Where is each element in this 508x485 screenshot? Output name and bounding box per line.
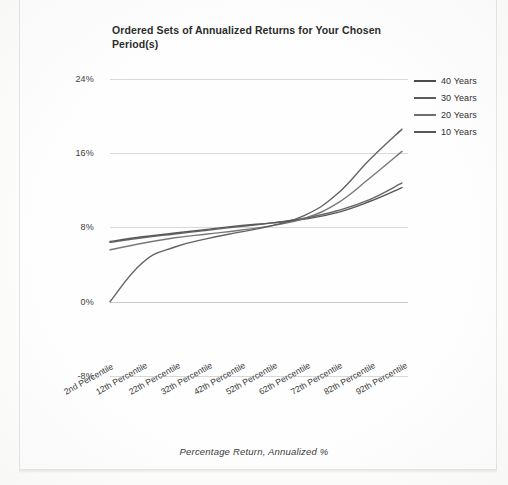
legend-item[interactable]: 20 Years [414,106,504,123]
legend-item[interactable]: 40 Years [414,72,504,89]
legend-item-label: 40 Years [441,76,477,86]
series-lines [110,70,408,385]
legend-item-label: 20 Years [441,110,477,120]
y-axis-tick-label: 24% [50,74,94,84]
legend-swatch-icon [414,97,436,99]
y-axis-tick-label: 16% [50,148,94,158]
legend-swatch-icon [414,131,436,133]
y-axis-tick-label: 0% [50,297,94,307]
series-line [110,188,402,242]
legend-item-label: 30 Years [441,93,477,103]
y-axis-tick-label: 8% [50,222,94,232]
x-axis-title: Percentage Return, Annualized % [0,446,508,457]
series-line [110,183,402,242]
legend-item-label: 10 Years [441,127,477,137]
plot-area [110,70,408,385]
legend-swatch-icon [414,114,436,116]
page-shadow [19,470,497,473]
legend-item[interactable]: 30 Years [414,89,504,106]
y-axis-tick-label: -8% [50,371,94,381]
series-line [110,129,402,302]
chart-title: Ordered Sets of Annualized Returns for Y… [112,23,402,51]
legend-item[interactable]: 10 Years [414,123,504,140]
document-page: Ordered Sets of Annualized Returns for Y… [0,0,508,485]
chart-legend: 40 Years 30 Years 20 Years 10 Years [414,72,504,140]
legend-swatch-icon [414,80,436,82]
